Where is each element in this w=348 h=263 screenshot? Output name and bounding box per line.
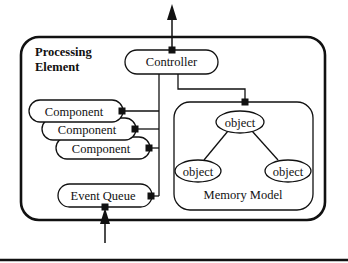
object-label: object — [225, 116, 256, 130]
memory-model-node[interactable]: object object object Memory Model — [174, 99, 313, 211]
memory-model-port-icon — [242, 99, 249, 106]
wire-memory-model — [178, 74, 245, 101]
controller-port-icon — [169, 47, 176, 54]
event-queue-label: Event Queue — [71, 189, 136, 203]
event-queue-output-port-icon — [148, 193, 155, 200]
controller-label: Controller — [146, 55, 198, 69]
component-port-icon — [146, 145, 153, 152]
memory-model-label: Memory Model — [204, 188, 283, 202]
output-arrow-head-icon — [167, 4, 177, 20]
component-port-icon — [132, 126, 139, 133]
component-label: Component — [58, 123, 117, 137]
object-left[interactable]: object — [175, 160, 221, 182]
component-label: Component — [72, 142, 131, 156]
processing-element-diagram: Processing Element Controller Component … — [0, 0, 348, 263]
component-port-icon — [119, 108, 126, 115]
container-title-line2: Element — [35, 60, 80, 74]
object-label: object — [273, 165, 304, 179]
object-root[interactable]: object — [216, 111, 264, 133]
object-label: object — [183, 165, 214, 179]
object-right[interactable]: object — [265, 160, 311, 182]
event-queue-node[interactable]: Event Queue — [58, 184, 155, 211]
container-title-line1: Processing — [35, 45, 92, 59]
component-label: Component — [45, 105, 104, 119]
component-node-1[interactable]: Component — [29, 100, 126, 122]
controller-node[interactable]: Controller — [125, 47, 218, 75]
